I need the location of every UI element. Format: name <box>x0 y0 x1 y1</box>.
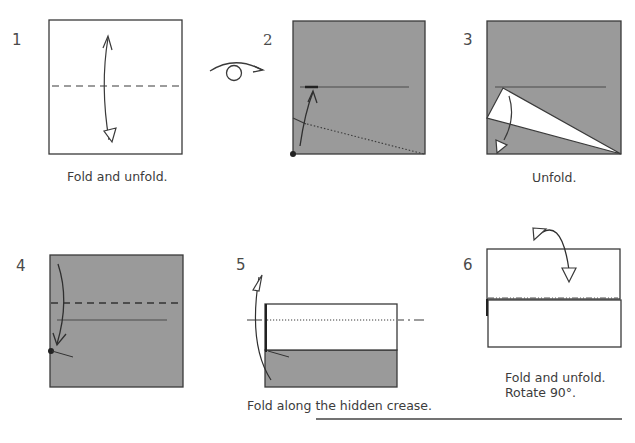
square-paper-colored <box>50 255 183 387</box>
step-1-diagram <box>49 20 182 154</box>
step-number-5: 5 <box>236 256 246 274</box>
top-white-layer <box>265 304 397 350</box>
step-4-diagram <box>48 255 183 387</box>
square-paper <box>49 20 182 154</box>
turn-over-icon <box>210 63 263 81</box>
lower-panel <box>488 300 621 347</box>
step-number-1: 1 <box>12 31 22 49</box>
step-number-3: 3 <box>463 31 473 49</box>
step-6-caption-line-1: Fold and unfold. <box>505 370 606 385</box>
reference-point <box>290 151 296 157</box>
step-6-caption-line-2: Rotate 90°. <box>505 385 576 400</box>
arrow-hollow-tail-icon <box>533 228 546 240</box>
upper-panel <box>487 249 620 299</box>
step-3-diagram <box>487 21 621 154</box>
step-6-diagram <box>487 228 621 347</box>
step-5-caption: Fold along the hidden crease. <box>247 398 432 413</box>
step-number-4: 4 <box>16 257 26 275</box>
arrow-hollow-head-icon <box>253 275 262 291</box>
step-number-6: 6 <box>463 256 473 274</box>
step-1-caption: Fold and unfold. <box>67 169 168 184</box>
step-2-diagram <box>290 21 425 157</box>
step-5-diagram <box>247 275 424 387</box>
step-3-caption: Unfold. <box>532 170 577 185</box>
step-number-2: 2 <box>263 31 273 49</box>
